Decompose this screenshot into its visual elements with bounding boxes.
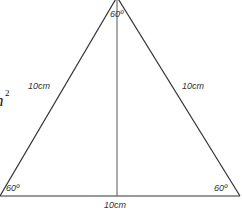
partial-formula-superscript: 2 <box>5 88 10 98</box>
angle-label-bottom-right: 60º <box>214 183 228 193</box>
angle-label-top: 60º <box>110 9 124 19</box>
side-label-left: 10cm <box>28 81 51 91</box>
triangle-right-side <box>117 0 240 196</box>
triangle-left-side <box>0 0 117 196</box>
partial-formula-letter: n <box>0 91 4 110</box>
angle-label-bottom-left: 60º <box>6 183 20 193</box>
side-label-right: 10cm <box>182 81 205 91</box>
side-label-base: 10cm <box>104 200 127 210</box>
triangle-diagram: 60º 10cm 10cm 60º 60º 10cm n 2 <box>0 0 242 217</box>
